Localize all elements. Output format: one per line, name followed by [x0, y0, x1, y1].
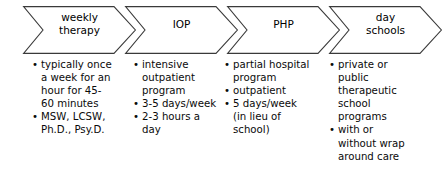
chevron-shape-1 [23, 6, 136, 54]
list-item: 5 days/week (in lieu of school) [224, 97, 312, 136]
bullet-list-1: typically once a week for an hour for 45… [32, 58, 114, 137]
list-item: outpatient [224, 84, 312, 97]
diagram-canvas: weekly therapy IOP PHP day [0, 0, 446, 171]
chevron-stage-1[interactable] [23, 6, 136, 54]
bullet-column-day-schools: private or public therapeutic school pro… [329, 58, 409, 163]
list-item: 3-5 days/week [133, 97, 219, 110]
bullet-list-4: private or public therapeutic school pro… [329, 58, 409, 163]
chevron-shape-2 [125, 6, 238, 54]
bullet-list-3: partial hospital program outpatient 5 da… [224, 58, 312, 137]
bullet-column-php: partial hospital program outpatient 5 da… [224, 58, 312, 137]
chevron-shape-4 [329, 6, 442, 54]
bullet-column-iop: intensive outpatient program 3-5 days/we… [133, 58, 219, 137]
list-item: MSW, LCSW, Ph.D., Psy.D. [32, 110, 114, 136]
chevron-shape-3 [227, 6, 340, 54]
list-item: with or without wrap around care [329, 123, 409, 162]
chevron-stage-2[interactable] [125, 6, 238, 54]
list-item: typically once a week for an hour for 45… [32, 58, 114, 110]
list-item: intensive outpatient program [133, 58, 219, 97]
list-item: private or public therapeutic school pro… [329, 58, 409, 123]
chevron-stage-4[interactable] [329, 6, 442, 54]
list-item: partial hospital program [224, 58, 312, 84]
chevron-flow: weekly therapy IOP PHP day [0, 0, 446, 58]
bullet-columns: typically once a week for an hour for 45… [0, 58, 446, 171]
bullet-column-weekly-therapy: typically once a week for an hour for 45… [32, 58, 114, 137]
bullet-list-2: intensive outpatient program 3-5 days/we… [133, 58, 219, 137]
chevron-stage-3[interactable] [227, 6, 340, 54]
list-item: 2-3 hours a day [133, 110, 219, 136]
